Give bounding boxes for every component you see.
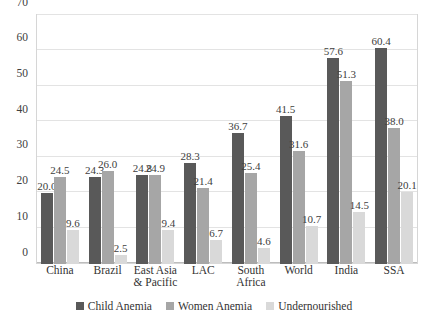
bar-slot: 21.4	[197, 14, 209, 264]
x-axis-tick-line: World	[275, 264, 323, 276]
bar-value-label: 9.4	[162, 218, 176, 229]
bar[interactable]: 9.6	[67, 230, 79, 264]
legend-label: Undernourished	[278, 301, 352, 313]
bar-value-label: 14.5	[350, 200, 369, 211]
y-axis-tick-30: 30	[17, 140, 29, 152]
bar[interactable]: 9.4	[162, 230, 174, 264]
bar-group: 28.321.46.7	[179, 14, 227, 264]
bar-group: 36.725.44.6	[227, 14, 275, 264]
bar-slot: 51.3	[340, 14, 352, 264]
bar-chart: 010203040506070 20.024.59.624.326.02.524…	[0, 0, 428, 318]
bar[interactable]: 20.0	[41, 193, 53, 264]
bar-slot: 24.8	[136, 14, 148, 264]
x-axis-tick-line: SSA	[370, 264, 418, 276]
x-axis-tick-label: Brazil	[84, 262, 132, 290]
bar-group: 24.824.99.4	[132, 14, 180, 264]
bar-value-label: 6.7	[209, 228, 223, 239]
bar-slot: 25.4	[245, 14, 257, 264]
x-axis-tick-line: & Pacific	[132, 276, 180, 288]
y-axis-tick-10: 10	[17, 211, 29, 223]
bar[interactable]: 25.4	[245, 173, 257, 264]
bar-slot: 26.0	[102, 14, 114, 264]
bar-slot: 2.5	[115, 14, 127, 264]
bar-value-label: 9.6	[66, 218, 80, 229]
y-axis-tick-40: 40	[17, 104, 29, 116]
x-axis-tick-label: India	[323, 262, 371, 290]
bar-group: 60.438.020.1	[370, 14, 418, 264]
bar-value-label: 2.5	[114, 243, 128, 254]
bar[interactable]: 20.1	[401, 192, 413, 264]
bar[interactable]: 24.9	[149, 175, 161, 264]
bar-group: 24.326.02.5	[84, 14, 132, 264]
bar-slot: 24.3	[89, 14, 101, 264]
bar[interactable]: 36.7	[232, 133, 244, 264]
legend-item-women-anemia[interactable]: Women Anemia	[166, 301, 252, 313]
x-axis-tick-line: China	[36, 264, 84, 276]
bars-layer: 20.024.59.624.326.02.524.824.99.428.321.…	[36, 14, 418, 264]
bar[interactable]: 38.0	[388, 128, 400, 264]
bar[interactable]: 6.7	[210, 240, 222, 264]
legend-swatch-icon	[266, 302, 274, 310]
bar-slot: 24.9	[149, 14, 161, 264]
bar-value-label: 4.6	[257, 236, 271, 247]
legend-swatch-icon	[166, 302, 174, 310]
legend-label: Women Anemia	[178, 301, 252, 313]
bar-slot: 38.0	[388, 14, 400, 264]
y-axis-tick-60: 60	[17, 32, 29, 44]
bar-slot: 20.0	[41, 14, 53, 264]
bar[interactable]: 60.4	[375, 48, 387, 264]
bar[interactable]: 14.5	[353, 212, 365, 264]
bar[interactable]: 24.3	[89, 177, 101, 264]
bar-slot: 36.7	[232, 14, 244, 264]
chart-legend: Child AnemiaWomen AnemiaUndernourished	[0, 301, 428, 313]
y-axis-tick-20: 20	[17, 175, 29, 187]
legend-item-child-anemia[interactable]: Child Anemia	[76, 301, 152, 313]
bar-slot: 9.6	[67, 14, 79, 264]
y-axis-tick-50: 50	[17, 68, 29, 80]
x-axis-tick-line: Brazil	[84, 264, 132, 276]
bar-slot: 31.6	[293, 14, 305, 264]
bar[interactable]: 51.3	[340, 81, 352, 264]
bar[interactable]: 24.5	[54, 177, 66, 265]
x-axis-tick-line: Africa	[227, 276, 275, 288]
bar-slot: 10.7	[306, 14, 318, 264]
bar-value-label: 10.7	[302, 214, 321, 225]
bar-slot: 57.6	[327, 14, 339, 264]
x-axis-tick-label: World	[275, 262, 323, 290]
bar-group: 57.651.314.5	[323, 14, 371, 264]
bar-group: 41.531.610.7	[275, 14, 323, 264]
bar-slot: 20.1	[401, 14, 413, 264]
y-axis-tick-70: 70	[17, 0, 29, 8]
bar-slot: 6.7	[210, 14, 222, 264]
legend-label: Child Anemia	[88, 301, 152, 313]
y-axis-tick-0: 0	[22, 247, 28, 259]
x-axis-tick-label: East Asia& Pacific	[132, 262, 180, 290]
legend-swatch-icon	[76, 302, 84, 310]
x-axis-tick-line: India	[323, 264, 371, 276]
bar[interactable]: 10.7	[306, 226, 318, 264]
x-axis-tick-label: China	[36, 262, 84, 290]
x-axis-tick-line: LAC	[179, 264, 227, 276]
bar-value-label: 20.1	[398, 180, 417, 191]
bar[interactable]: 24.8	[136, 175, 148, 264]
bar[interactable]: 31.6	[293, 151, 305, 264]
x-axis-tick-line: East Asia	[132, 264, 180, 276]
bar-slot: 9.4	[162, 14, 174, 264]
bar-slot: 4.6	[258, 14, 270, 264]
bar-group: 20.024.59.6	[36, 14, 84, 264]
x-axis-tick-label: SouthAfrica	[227, 262, 275, 290]
bar[interactable]: 26.0	[102, 171, 114, 264]
x-axis-tick-line: South	[227, 264, 275, 276]
x-axis: ChinaBrazilEast Asia& PacificLACSouthAfr…	[36, 262, 418, 290]
bar-slot: 28.3	[184, 14, 196, 264]
x-axis-tick-label: SSA	[370, 262, 418, 290]
bar-slot: 24.5	[54, 14, 66, 264]
y-axis: 010203040506070	[0, 14, 32, 264]
legend-item-undernourished[interactable]: Undernourished	[266, 301, 352, 313]
bar-slot: 14.5	[353, 14, 365, 264]
x-axis-tick-label: LAC	[179, 262, 227, 290]
bar-slot: 60.4	[375, 14, 387, 264]
bar[interactable]: 21.4	[197, 188, 209, 264]
bar[interactable]: 57.6	[327, 58, 339, 264]
